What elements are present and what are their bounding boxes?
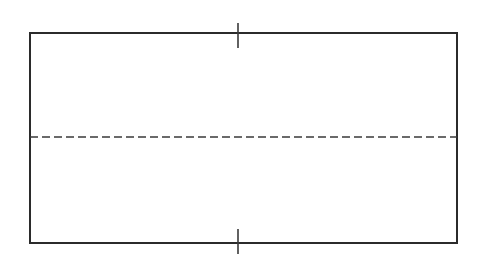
technical-drawing [0, 0, 489, 274]
drawing-canvas [0, 0, 489, 274]
